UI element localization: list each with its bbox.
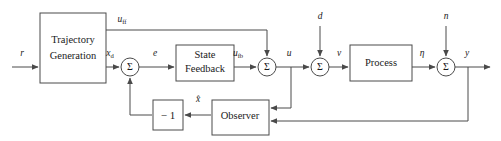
block-process-label: Process [365, 57, 397, 68]
block-state-feedback-line1: State [195, 49, 216, 60]
summing-junction-noise-glyph: Σ [443, 61, 449, 72]
wire-gain-to-sum [130, 78, 152, 115]
summing-junction-error-glyph: Σ [127, 61, 133, 72]
signal-label-state-estimate: x̂ [195, 94, 201, 104]
signal-label-plant-output: η [420, 48, 425, 58]
signal-label-control: u [287, 48, 292, 58]
control-block-diagram: Trajectory Generation State Feedback Pro… [0, 0, 501, 141]
signal-label-error: e [153, 48, 157, 58]
signal-label-plant-input: v [337, 48, 342, 58]
block-observer-label: Observer [221, 110, 260, 121]
block-trajectory-generation[interactable] [40, 13, 106, 83]
signal-label-noise: n [444, 11, 449, 21]
signal-label-desired-state: xd [105, 48, 114, 59]
block-state-feedback-line2: Feedback [185, 63, 226, 74]
block-trajectory-generation-line2: Generation [50, 50, 97, 61]
diagram-canvas: Trajectory Generation State Feedback Pro… [0, 0, 501, 141]
signal-label-reference: r [20, 48, 24, 58]
signal-label-feedforward: uff [117, 14, 127, 25]
signal-label-feedback-control: ufb [233, 48, 244, 59]
block-trajectory-generation-line1: Trajectory [51, 34, 95, 45]
signal-label-measured-output: y [464, 48, 470, 58]
summing-junction-disturbance-glyph: Σ [317, 61, 323, 72]
block-gain-label: − 1 [161, 109, 175, 121]
signal-label-disturbance: d [318, 11, 323, 21]
summing-junction-control-glyph: Σ [264, 61, 270, 72]
